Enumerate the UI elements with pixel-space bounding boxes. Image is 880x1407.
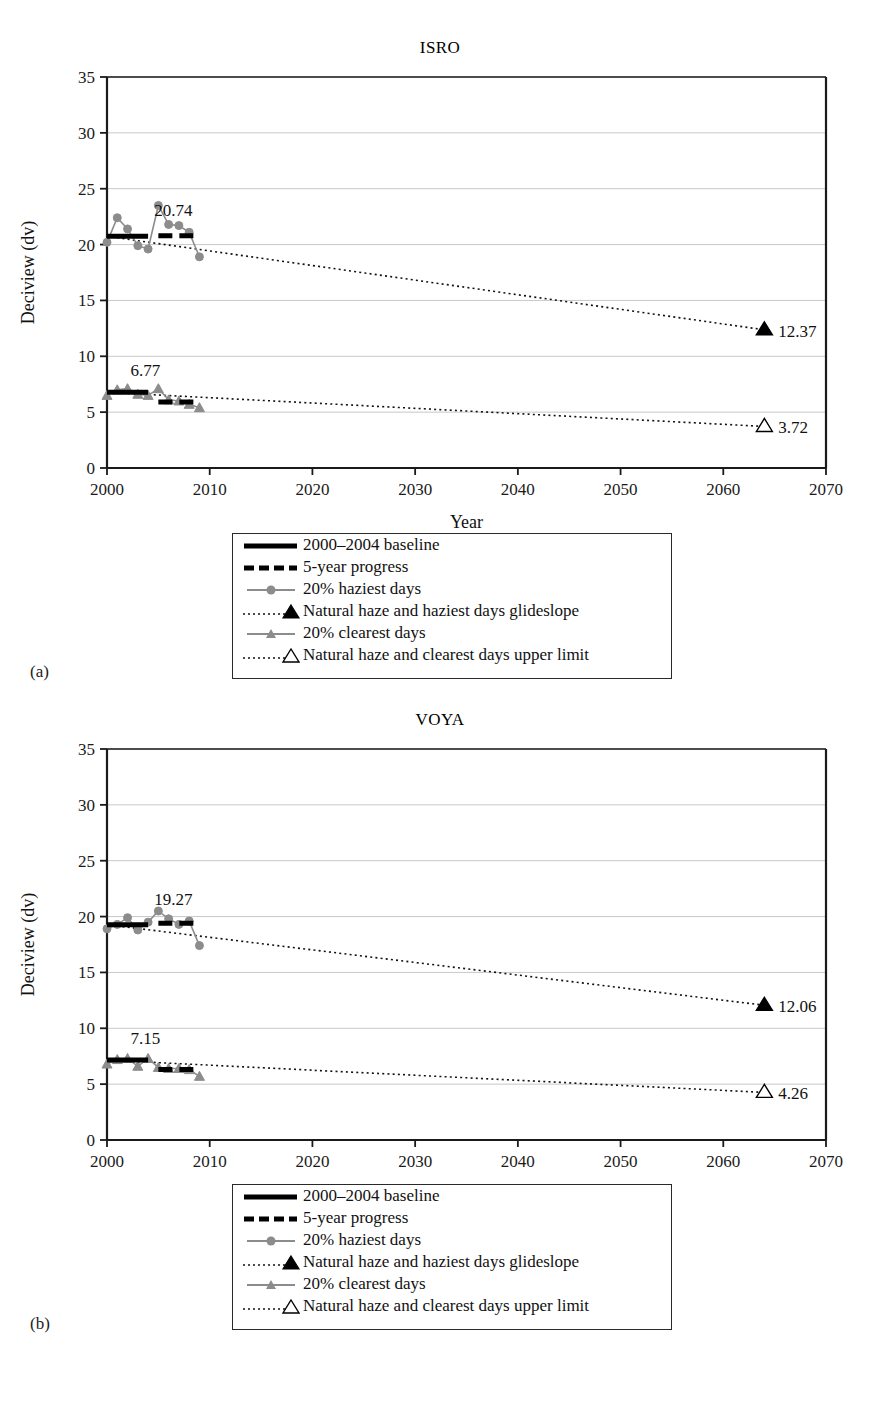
baseline-label-haziest: 20.74 [154,201,193,220]
data-point-marker [175,222,183,230]
y-tick-label: 35 [78,68,95,87]
legend-item: Natural haze and clearest days upper lim… [233,644,671,666]
dotted-line-filled-triangle-icon [241,1251,303,1273]
dotted-line-filled-triangle-icon [241,600,303,622]
x-axis-title: Year [450,512,483,530]
data-point-marker [165,220,173,228]
baseline-label-clearest: 7.15 [131,1029,161,1048]
x-tick-label: 2070 [809,480,843,499]
legend-item: Natural haze and haziest days glideslope [233,600,671,622]
legend-item: Natural haze and clearest days upper lim… [233,1295,671,1317]
y-tick-label: 35 [78,740,95,759]
x-tick-label: 2020 [295,1152,329,1171]
figure-panel-voya: VOYA 05101520253035200020102020203020402… [0,700,880,1407]
y-axis-title: Deciview (dv) [18,893,39,996]
gray-line-triangle-marker-icon [241,622,303,644]
solid-thick-black-line-icon [241,534,303,556]
glideslope-filled: 12.06 [107,925,817,1017]
chart-plot-isro: 0510152025303520002010202020302040205020… [0,0,880,530]
series-haziest-days [103,907,203,950]
legend-item-label: 20% clearest days [303,623,426,643]
legend-item: 2000–2004 baseline [233,534,671,556]
y-axis-ticks: 05101520253035 [78,740,107,1150]
legend-item-label: 5-year progress [303,557,408,577]
series-clearest-days [102,384,204,412]
gray-line-circle-marker-icon [241,1229,303,1251]
x-tick-label: 2010 [193,1152,227,1171]
y-tick-label: 5 [87,1075,96,1094]
glideslope-line [107,1060,764,1092]
gray-line-circle-marker-icon [241,578,303,600]
legend-item: 5-year progress [233,556,671,578]
chart-legend-isro: 2000–2004 baseline5-year progress20% haz… [232,533,672,679]
legend-item-label: Natural haze and haziest days glideslope [303,1252,579,1272]
x-axis-ticks: 20002010202020302040205020602070 [90,468,843,499]
y-tick-label: 30 [78,796,95,815]
legend-item: 20% haziest days [233,578,671,600]
x-tick-label: 2060 [706,480,740,499]
data-point-marker [195,942,203,950]
x-tick-label: 2030 [398,1152,432,1171]
x-tick-label: 2000 [90,480,124,499]
legend-item-label: 2000–2004 baseline [303,535,439,555]
y-tick-label: 5 [87,403,96,422]
y-tick-label: 20 [78,908,95,927]
legend-item-label: 2000–2004 baseline [303,1186,439,1206]
glideslope-line [107,925,764,1006]
x-tick-label: 2050 [604,1152,638,1171]
data-point-marker [124,225,132,233]
legend-item: 20% haziest days [233,1229,671,1251]
series-clearest-days [102,1053,204,1080]
endpoint-label-clearest: 4.26 [778,1084,808,1103]
data-point-marker [194,1071,204,1080]
endpoint-label-haziest: 12.37 [778,322,817,341]
x-tick-label: 2000 [90,1152,124,1171]
glideslope-line [107,236,764,330]
data-point-marker [124,914,132,922]
dotted-line-open-triangle-icon [241,644,303,666]
data-point-marker [195,253,203,261]
solid-thick-black-line-icon [241,1185,303,1207]
chart-plot-voya: 0510152025303520002010202020302040205020… [0,672,880,1177]
legend-item-label: 20% haziest days [303,579,421,599]
data-point-marker [153,384,163,393]
x-tick-label: 2050 [604,480,638,499]
gridlines [107,77,826,412]
plot-frame [107,749,826,1140]
legend-marker [267,1237,276,1246]
legend-item-label: 20% haziest days [303,1230,421,1250]
legend-marker [283,649,299,662]
endpoint-label-haziest: 12.06 [778,997,816,1016]
legend-item: 2000–2004 baseline [233,1185,671,1207]
dotted-line-open-triangle-icon [241,1295,303,1317]
y-tick-label: 10 [78,1019,95,1038]
baseline-label-haziest: 19.27 [154,890,193,909]
glideslope-line [107,392,764,426]
y-tick-label: 20 [78,236,95,255]
x-tick-label: 2060 [706,1152,740,1171]
baseline-label-clearest: 6.77 [131,361,161,380]
glideslope-filled: 12.37 [107,236,817,341]
legend-marker [283,605,299,618]
dashed-thick-black-line-icon [241,556,303,578]
y-tick-label: 30 [78,124,95,143]
legend-item: 5-year progress [233,1207,671,1229]
glideslope-endpoint-open-triangle-icon [756,1084,772,1097]
x-tick-label: 2040 [501,480,535,499]
plot-frame [107,77,826,468]
gray-line-triangle-marker-icon [241,1273,303,1295]
y-tick-label: 0 [87,1131,96,1150]
x-axis-ticks: 20002010202020302040205020602070 [90,1140,843,1171]
glideslope-endpoint-filled-triangle-icon [756,997,772,1010]
legend-marker [283,1300,299,1313]
legend-marker [267,586,276,595]
y-tick-label: 25 [78,180,95,199]
y-tick-label: 15 [78,963,95,982]
data-point-marker [134,242,142,250]
x-tick-label: 2040 [501,1152,535,1171]
figure-panel-isro: ISRO 05101520253035200020102020203020402… [0,0,880,700]
subfigure-label-b: (b) [30,1314,50,1334]
x-tick-label: 2030 [398,480,432,499]
glideslope-open: 4.26 [107,1060,808,1103]
dashed-thick-black-line-icon [241,1207,303,1229]
